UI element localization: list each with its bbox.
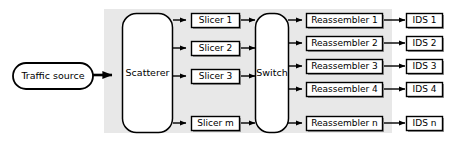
node-reassembler-n xyxy=(307,117,385,133)
node-ids-4 xyxy=(407,83,445,99)
node-traffic-source xyxy=(13,63,93,89)
node-slicer-m xyxy=(192,117,242,133)
node-reassembler-1 xyxy=(307,14,385,30)
diagram-vector-layer xyxy=(0,0,455,147)
node-slicer-1 xyxy=(192,14,242,30)
node-ids-n xyxy=(407,117,445,133)
node-slicer-2 xyxy=(192,42,242,58)
node-switch xyxy=(256,14,289,133)
node-ids-1 xyxy=(407,14,445,30)
node-reassembler-2 xyxy=(307,37,385,53)
diagram-canvas: Traffic source Scatterer Switch Slicer 1… xyxy=(0,0,455,147)
node-ids-3 xyxy=(407,60,445,76)
node-slicer-3 xyxy=(192,70,242,86)
node-scatterer xyxy=(123,14,173,133)
node-ids-2 xyxy=(407,37,445,53)
node-reassembler-3 xyxy=(307,60,385,76)
node-reassembler-4 xyxy=(307,83,385,99)
